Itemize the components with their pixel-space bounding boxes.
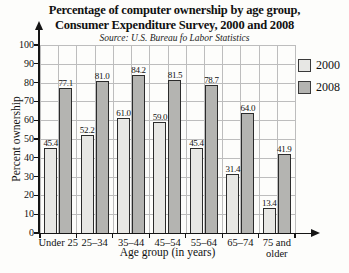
y-tick-label: 30 xyxy=(0,171,34,183)
y-tick-label: 20 xyxy=(0,189,34,201)
x-tick-mark xyxy=(258,234,259,238)
value-label: 81.5 xyxy=(168,70,183,80)
y-tick-label: 60 xyxy=(0,114,34,126)
bar-group: 31.464.0 xyxy=(222,45,258,233)
y-tick-mark xyxy=(34,214,38,215)
value-label: 77.1 xyxy=(58,78,73,88)
legend-item-2008: 2008 xyxy=(298,80,340,95)
chart-title: Percentage of computer ownership by age … xyxy=(0,3,349,43)
value-label: 13.4 xyxy=(262,198,277,208)
chart-source: Source: U.S. Bureau fo Labor Statistics xyxy=(0,33,349,43)
value-label: 59.0 xyxy=(153,112,168,122)
bar-2000: 31.4 xyxy=(226,174,239,233)
plot-area: 45.477.152.281.061.084.259.081.545.478.7… xyxy=(40,45,296,233)
bar-group: 45.477.1 xyxy=(40,45,76,233)
y-tick-mark xyxy=(34,138,38,139)
bar-2008: 77.1 xyxy=(59,88,72,233)
y-tick-mark xyxy=(34,232,38,233)
x-axis-line xyxy=(38,233,313,235)
value-label: 81.0 xyxy=(95,71,110,81)
value-label: 84.2 xyxy=(131,65,146,75)
x-tick-mark xyxy=(76,234,77,238)
legend-item-2000: 2000 xyxy=(298,58,340,73)
bar-2000: 45.4 xyxy=(44,148,57,233)
value-label: 45.4 xyxy=(43,138,58,148)
y-tick-label: 80 xyxy=(0,77,34,89)
bar-group: 61.084.2 xyxy=(113,45,149,233)
y-tick-label: 70 xyxy=(0,95,34,107)
y-tick-mark xyxy=(34,44,38,45)
bar-2000: 52.2 xyxy=(81,135,94,233)
x-tick-mark xyxy=(294,234,295,238)
value-label: 41.9 xyxy=(277,144,292,154)
legend-swatch-icon xyxy=(298,59,311,72)
bar-group: 13.441.9 xyxy=(259,45,295,233)
chart-title-line2: Consumer Expenditure Survey, 2000 and 20… xyxy=(0,18,349,33)
x-tick-mark xyxy=(39,234,40,238)
y-tick-mark xyxy=(34,101,38,102)
legend-label: 2008 xyxy=(316,80,340,95)
value-label: 31.4 xyxy=(226,164,241,174)
y-axis-arrow-icon xyxy=(35,21,43,30)
y-tick-label: 90 xyxy=(0,58,34,70)
bar-2000: 61.0 xyxy=(117,118,130,233)
value-label: 52.2 xyxy=(80,125,95,135)
legend-swatch-icon xyxy=(298,81,311,94)
y-tick-mark xyxy=(34,63,38,64)
x-tick-label: 75 and older xyxy=(255,237,299,260)
x-axis-arrow-icon xyxy=(311,229,320,237)
bar-2008: 81.5 xyxy=(168,80,181,233)
y-tick-label: 100 xyxy=(0,39,34,51)
bar-2008: 81.0 xyxy=(96,81,109,233)
y-tick-mark xyxy=(34,176,38,177)
y-tick-label: 40 xyxy=(0,152,34,164)
bar-2000: 59.0 xyxy=(153,122,166,233)
y-tick-mark xyxy=(34,82,38,83)
x-tick-mark xyxy=(185,234,186,238)
y-tick-label: 10 xyxy=(0,208,34,220)
bar-2000: 45.4 xyxy=(190,148,203,233)
y-tick-label: 50 xyxy=(0,133,34,145)
x-tick-mark xyxy=(149,234,150,238)
y-tick-mark xyxy=(34,120,38,121)
legend: 20002008 xyxy=(298,58,340,95)
bar-2008: 64.0 xyxy=(241,113,254,233)
bar-2008: 41.9 xyxy=(278,154,291,233)
value-label: 78.7 xyxy=(204,75,219,85)
y-tick-mark xyxy=(34,195,38,196)
bar-2008: 84.2 xyxy=(132,75,145,233)
value-label: 64.0 xyxy=(241,103,256,113)
legend-label: 2000 xyxy=(316,58,340,73)
value-label: 61.0 xyxy=(116,108,131,118)
bar-group: 59.081.5 xyxy=(149,45,185,233)
x-tick-mark xyxy=(222,234,223,238)
bar-group: 45.478.7 xyxy=(186,45,222,233)
x-tick-mark xyxy=(112,234,113,238)
y-tick-mark xyxy=(34,157,38,158)
chart-title-line1: Percentage of computer ownership by age … xyxy=(0,3,349,18)
value-label: 45.4 xyxy=(189,138,204,148)
y-axis-line xyxy=(38,30,40,234)
bar-group: 52.281.0 xyxy=(76,45,112,233)
bar-chart: Percentage of computer ownership by age … xyxy=(0,0,349,273)
bar-2000: 13.4 xyxy=(263,208,276,233)
bar-2008: 78.7 xyxy=(205,85,218,233)
